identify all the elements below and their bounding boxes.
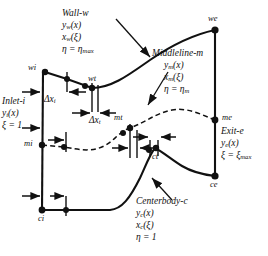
middleline-eta: η = ηm xyxy=(164,84,203,96)
inlet-xi: ξ = 1 xyxy=(2,120,25,132)
node-mi xyxy=(39,142,45,148)
wall-y-function: yw(x) xyxy=(62,20,94,32)
middleline-y-function: ym(x) xyxy=(164,60,203,72)
inlet-label-group: Inlet-i yi(x) ξ = 1 xyxy=(2,96,25,132)
centerbody-title: Centerbody-c xyxy=(136,196,188,208)
centerbody-curve xyxy=(42,148,215,210)
centerbody-y-function: yc(x) xyxy=(136,208,188,220)
wall-eta: η = ηmax xyxy=(62,44,94,56)
wall-label-group: Wall-w yw(x) xw(ξ) η = ηmax xyxy=(62,8,94,56)
dimension-arrows xyxy=(22,92,176,196)
diagram-canvas: Wall-w yw(x) xw(ξ) η = ηmax Middleline-m… xyxy=(0,0,268,256)
node-me xyxy=(212,117,219,124)
inlet-boundary xyxy=(42,72,43,210)
node-label-wi: wi xyxy=(28,63,36,72)
node-label-we: we xyxy=(208,14,217,23)
leader-lines xyxy=(116,19,172,200)
node-label-ct: ct xyxy=(152,152,158,161)
centerbody-eta: η = 1 xyxy=(136,232,188,244)
middleline-x-function: xm(ξ) xyxy=(164,72,203,84)
exit-y-function: ye(x) xyxy=(221,138,251,150)
node-wi xyxy=(42,69,48,75)
node-label-mt: mt xyxy=(114,113,123,122)
centerbody-label-group: Centerbody-c yc(x) xc(ξ) η = 1 xyxy=(136,196,188,244)
centerbody-x-function: xc(ξ) xyxy=(136,220,188,232)
exit-title: Exit-e xyxy=(221,126,251,138)
dimension-label-delta-xi: Δxi xyxy=(44,95,56,105)
node-label-wt: wt xyxy=(88,74,96,83)
middleline-title: Middleline-m xyxy=(152,48,203,60)
grid-ticks xyxy=(66,72,158,216)
inlet-title: Inlet-i xyxy=(2,96,25,108)
dimension-label-delta-xt: Δxt xyxy=(89,116,101,126)
node-mt xyxy=(127,125,133,131)
node-label-me: me xyxy=(222,113,232,122)
node-label-ce: ce xyxy=(210,180,218,189)
node-wt xyxy=(89,85,95,91)
wall-x-function: xw(ξ) xyxy=(62,32,94,44)
node-we xyxy=(211,26,218,33)
middleline-label-group: Middleline-m ym(x) xm(ξ) η = ηm xyxy=(152,48,203,96)
node-label-mi: mi xyxy=(24,139,33,148)
exit-label-group: Exit-e ye(x) ξ = ξmax xyxy=(221,126,251,162)
inlet-y-function: yi(x) xyxy=(2,108,25,120)
wall-title: Wall-w xyxy=(62,8,94,20)
node-label-ci: ci xyxy=(38,214,44,223)
exit-xi: ξ = ξmax xyxy=(221,150,251,162)
